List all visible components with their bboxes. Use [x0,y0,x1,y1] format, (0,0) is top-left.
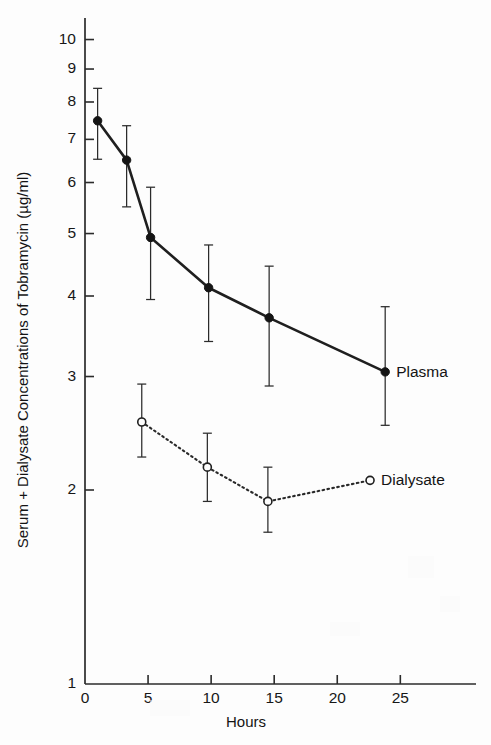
x-axis-ticks: 0510152025 [81,675,409,706]
y-axis-ticks: 12345678910 [59,30,94,691]
x-tick-label: 15 [266,689,283,706]
x-tick-label: 20 [329,689,347,706]
series-label-dialysate: Dialysate [381,471,445,488]
series-markers-dialysate [138,418,374,505]
y-tick-label: 1 [67,674,76,691]
data-point-marker [204,284,212,292]
tobramycin-concentration-chart: 12345678910 0510152025 Plasma Dialysate … [0,0,491,745]
y-tick-label: 7 [67,129,76,146]
error-bars-dialysate [137,384,272,532]
y-tick-label: 4 [67,286,76,303]
series-label-plasma: Plasma [396,363,448,380]
x-axis-title: Hours [226,713,266,730]
x-tick-label: 25 [392,689,409,706]
y-tick-label: 3 [67,367,76,384]
y-tick-label: 6 [67,173,76,190]
y-tick-label: 10 [59,30,77,47]
data-point-marker [203,463,211,471]
figure-canvas: 12345678910 0510152025 Plasma Dialysate … [0,0,491,745]
y-tick-label: 5 [67,224,76,241]
series-line-plasma [98,121,386,372]
error-bars-plasma [93,88,390,425]
data-point-marker [264,497,272,505]
series-line-dialysate [142,422,370,501]
data-point-marker [146,233,154,241]
series-markers-plasma [93,117,389,376]
data-point-marker [138,418,146,426]
y-axis-title: Serum + Dialysate Concentrations of Tobr… [14,172,31,548]
x-tick-label: 5 [144,689,153,706]
data-point-marker [265,314,273,322]
y-tick-label: 9 [67,59,76,76]
x-tick-label: 10 [203,689,221,706]
y-tick-label: 2 [67,480,76,497]
y-tick-label: 8 [67,92,76,109]
data-point-marker [366,476,374,484]
x-tick-label: 0 [81,689,90,706]
data-point-marker [122,156,130,164]
data-point-marker [93,117,101,125]
data-point-marker [381,368,389,376]
